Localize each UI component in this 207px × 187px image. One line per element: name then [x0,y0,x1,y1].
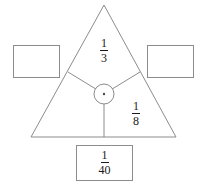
diagram-canvas: 1 3 1 8 1 40 [0,0,207,187]
center-node-dot [103,93,105,95]
bottom-box-denominator: 40 [98,163,112,177]
right-answer-box[interactable] [147,45,194,78]
bottom-box-fraction: 1 40 [98,149,112,177]
bottom-answer-box[interactable]: 1 40 [76,145,133,181]
left-answer-box[interactable] [13,45,60,78]
bottom-box-numerator: 1 [101,149,109,163]
